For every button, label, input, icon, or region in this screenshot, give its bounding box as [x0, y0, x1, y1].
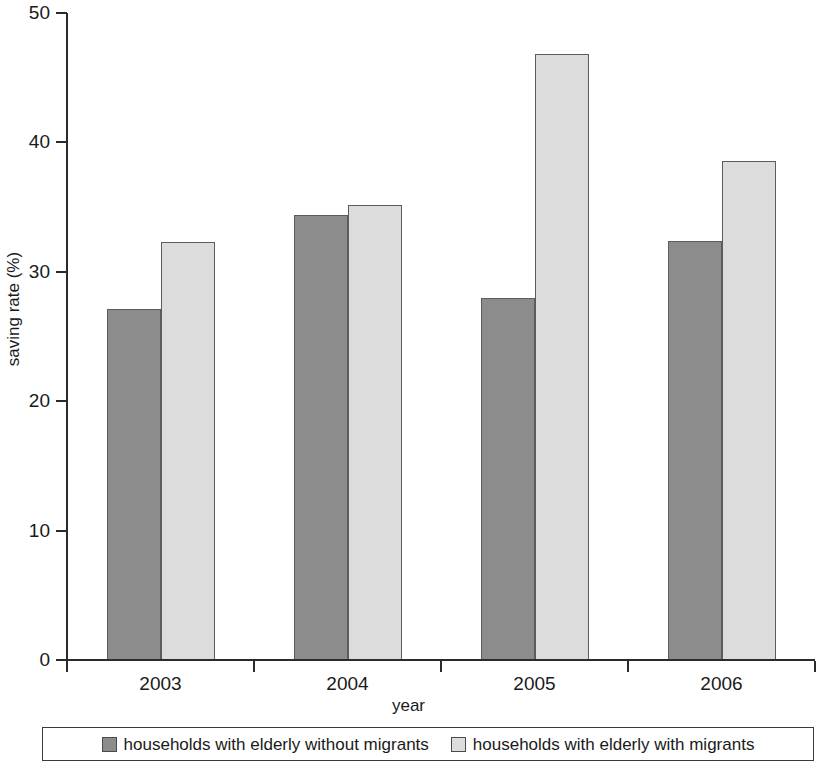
- bar-2003-series-1: [161, 242, 215, 660]
- y-tick-label: 50: [0, 3, 50, 22]
- chart-legend: households with elderly without migrants…: [42, 727, 814, 761]
- y-tick-label: 0: [0, 650, 50, 669]
- y-tick-mark: [56, 141, 67, 143]
- y-tick-mark: [56, 271, 67, 273]
- legend-entry-1: households with elderly with migrants: [451, 736, 755, 753]
- y-tick-label: 40: [0, 132, 50, 151]
- x-tick-label: 2004: [288, 673, 408, 695]
- bar-2003-series-0: [107, 309, 161, 660]
- x-tick-mark: [814, 661, 816, 672]
- y-axis-line: [66, 13, 68, 661]
- bar-2006-series-1: [722, 161, 776, 660]
- legend-swatch-icon: [451, 737, 466, 752]
- x-tick-label: 2006: [662, 673, 782, 695]
- x-axis-title: year: [0, 696, 817, 716]
- legend-swatch-icon: [102, 737, 117, 752]
- bar-2005-series-0: [481, 298, 535, 660]
- bar-chart-figure: saving rate (%) 01020304050 200320042005…: [0, 0, 817, 765]
- legend-label: households with elderly with migrants: [473, 736, 755, 753]
- x-tick-label: 2003: [101, 673, 221, 695]
- bar-2005-series-1: [535, 54, 589, 660]
- bar-2006-series-0: [668, 241, 722, 660]
- y-tick-label: 20: [0, 391, 50, 410]
- y-tick-mark: [56, 400, 67, 402]
- plot-area: 01020304050: [0, 0, 817, 661]
- x-tick-mark: [440, 661, 442, 672]
- y-tick-label: 10: [0, 521, 50, 540]
- legend-entry-0: households with elderly without migrants: [102, 736, 429, 753]
- y-tick-label: 30: [0, 262, 50, 281]
- x-tick-mark: [627, 661, 629, 672]
- x-tick-label: 2005: [475, 673, 595, 695]
- y-tick-mark: [56, 12, 67, 14]
- y-tick-mark: [56, 530, 67, 532]
- bar-2004-series-1: [348, 205, 402, 660]
- legend-label: households with elderly without migrants: [124, 736, 429, 753]
- bar-2004-series-0: [294, 215, 348, 660]
- x-tick-mark: [66, 661, 68, 672]
- x-tick-mark: [253, 661, 255, 672]
